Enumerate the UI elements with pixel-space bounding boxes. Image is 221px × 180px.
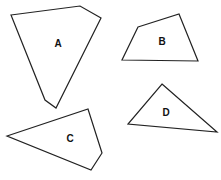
shapes-diagram: A B C D [0,0,221,180]
shape-c-label: C [66,133,73,144]
shape-d-outline [128,84,217,132]
shape-a-label: A [54,38,61,49]
diagram-svg: A B C D [0,0,221,180]
shape-a-outline [11,6,101,108]
shape-d-label: D [162,107,169,118]
shape-a: A [11,6,101,108]
shape-b: B [122,14,198,61]
shape-c-outline [7,109,102,170]
shape-b-label: B [158,36,165,47]
shape-d: D [128,84,217,132]
shape-c: C [7,109,102,170]
